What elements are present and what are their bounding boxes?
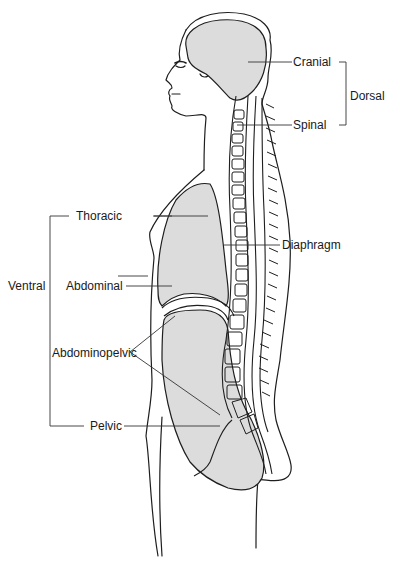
- cranial-cavity: [186, 20, 267, 100]
- label-cranial: Cranial: [293, 55, 331, 69]
- thoracic-cavity: [158, 184, 229, 306]
- label-diaphragm: Diaphragm: [282, 238, 341, 252]
- label-abdominopelvic: Abdominopelvic: [52, 346, 137, 360]
- label-pelvic: Pelvic: [90, 419, 122, 433]
- label-dorsal: Dorsal: [350, 89, 385, 103]
- label-abdominal: Abdominal: [66, 279, 123, 293]
- leg-front-line: [160, 417, 162, 556]
- abdominopelvic-cavity: [162, 310, 264, 490]
- label-ventral: Ventral: [8, 279, 45, 293]
- label-spinal: Spinal: [293, 118, 326, 132]
- body-cavities-illustration: [0, 0, 398, 561]
- vertebrae: [225, 104, 278, 434]
- label-thoracic: Thoracic: [76, 209, 122, 223]
